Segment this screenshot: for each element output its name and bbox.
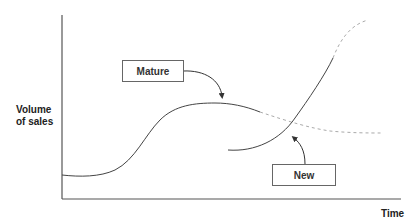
mature-product-curve xyxy=(62,103,260,176)
new-product-curve xyxy=(228,58,333,150)
diagram-canvas xyxy=(0,0,419,221)
new-growth-dashed xyxy=(333,20,368,58)
y-axis-label-line1: Volume xyxy=(16,104,53,116)
new-box: New xyxy=(272,164,336,186)
mature-arrow xyxy=(183,71,222,96)
y-axis-label: Volume of sales xyxy=(16,104,53,128)
mature-box: Mature xyxy=(122,60,184,82)
y-axis-label-line2: of sales xyxy=(16,116,53,128)
x-axis-label: Time xyxy=(381,208,404,220)
new-arrow xyxy=(294,138,305,164)
mature-decline-dashed xyxy=(260,112,382,133)
